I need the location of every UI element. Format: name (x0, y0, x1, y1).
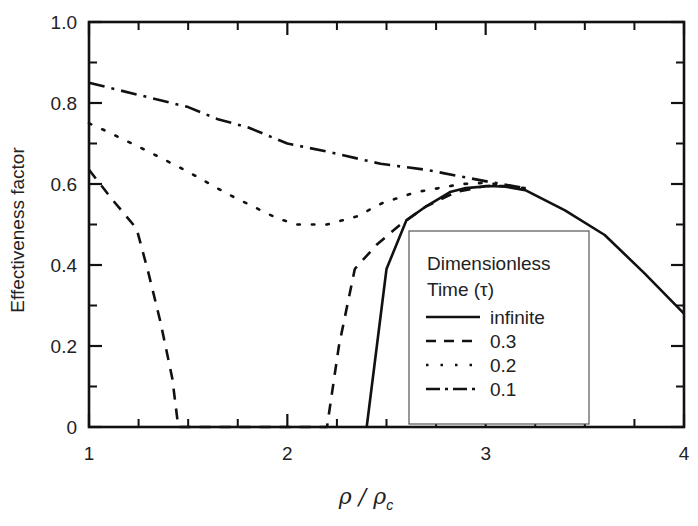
series-line-0-2 (89, 123, 525, 224)
y-tick-label: 0.6 (51, 174, 77, 195)
legend-title-line1: Dimensionless (427, 253, 551, 274)
legend: Dimensionless Time (τ) infinite 0.3 0.2 … (409, 231, 589, 424)
effectiveness-factor-chart: 00.20.40.60.81.01234 Effectiveness facto… (0, 0, 698, 526)
legend-title-line2: Time (τ) (427, 279, 494, 300)
x-tick-label: 3 (480, 443, 491, 464)
y-tick-label: 0.4 (51, 255, 78, 276)
legend-label-0-1: 0.1 (490, 379, 516, 400)
x-tick-label: 1 (84, 443, 95, 464)
x-tick-label: 4 (679, 443, 690, 464)
x-axis-title-main: ρ / ρ (338, 484, 386, 509)
x-axis-title: ρ / ρc (338, 484, 393, 513)
legend-label-infinite: infinite (490, 307, 545, 328)
y-tick-label: 0.8 (51, 93, 77, 114)
x-axis-title-subscript: c (386, 497, 393, 513)
y-tick-label: 0 (66, 417, 77, 438)
legend-label-0-2: 0.2 (490, 355, 516, 376)
y-axis-title: Effectiveness factor (7, 147, 28, 313)
x-tick-label: 2 (282, 443, 293, 464)
series-line-0-1 (89, 83, 525, 188)
y-tick-label: 1.0 (51, 12, 77, 33)
legend-label-0-3: 0.3 (490, 331, 516, 352)
series-layer (89, 83, 684, 427)
plot-frame (89, 22, 684, 427)
y-tick-label: 0.2 (51, 336, 77, 357)
axes-frame (89, 22, 684, 427)
